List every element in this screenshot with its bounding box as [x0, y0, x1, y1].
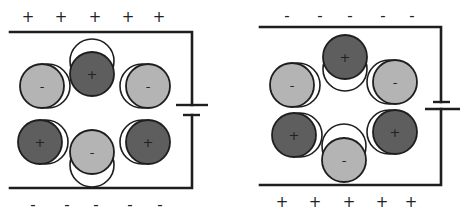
positive-charge-sign: + [276, 193, 289, 211]
ball-charge-label: - [40, 79, 45, 94]
negative-charge-sign: - [157, 196, 162, 214]
negative-charge-sign: - [409, 7, 414, 25]
negative-charge-sign: - [93, 196, 98, 214]
ball-charge-label: + [390, 125, 401, 140]
negative-charge-sign: - [284, 7, 289, 25]
right-circuit: -+-+-+ -----+++++ [260, 7, 460, 211]
positive-charge-sign: + [309, 193, 322, 211]
positive-charge-sign: + [89, 8, 102, 26]
charged-ball-negative: - [322, 124, 366, 182]
ball-charge-label: - [290, 78, 295, 93]
ball-charge-label: - [146, 79, 151, 94]
ball-charge-label: + [340, 50, 351, 65]
left-circuit: -+-+-+ +++++----- [10, 8, 208, 214]
charged-ball-positive: + [367, 110, 417, 154]
positive-charge-sign: + [22, 8, 35, 26]
charged-ball-negative: - [70, 130, 114, 187]
ball-charge-label: + [87, 67, 98, 82]
negative-charge-sign: - [347, 7, 352, 25]
left-balls: -+-+-+ [18, 39, 170, 187]
positive-charge-sign: + [405, 193, 418, 211]
charged-ball-positive: + [18, 120, 68, 164]
negative-charge-sign: - [127, 196, 132, 214]
charged-ball-positive: + [70, 39, 114, 96]
right-balls: -+-+-+ [270, 35, 417, 182]
positive-charge-sign: + [343, 193, 356, 211]
negative-charge-sign: - [64, 196, 69, 214]
positive-charge-sign: + [153, 8, 166, 26]
charged-ball-negative: - [367, 60, 417, 104]
negative-charge-sign: - [30, 196, 35, 214]
ball-charge-label: + [143, 135, 154, 150]
charged-ball-positive: + [323, 35, 367, 91]
ball-charge-label: - [90, 145, 95, 160]
negative-charge-sign: - [317, 7, 322, 25]
charged-ball-positive: + [272, 113, 322, 157]
ball-charge-label: - [342, 153, 347, 168]
charged-ball-positive: + [120, 120, 170, 164]
positive-charge-sign: + [122, 8, 135, 26]
electrostatic-induction-diagram: -+-+-+ +++++----- -+-+-+ -----+++++ [0, 0, 470, 218]
charged-ball-negative: - [270, 63, 320, 107]
negative-charge-sign: - [380, 7, 385, 25]
positive-charge-sign: + [376, 193, 389, 211]
ball-charge-label: + [289, 128, 300, 143]
charged-ball-negative: - [120, 64, 170, 108]
ball-charge-label: - [393, 75, 398, 90]
positive-charge-sign: + [55, 8, 68, 26]
ball-charge-label: + [35, 135, 46, 150]
charged-ball-negative: - [20, 64, 70, 108]
